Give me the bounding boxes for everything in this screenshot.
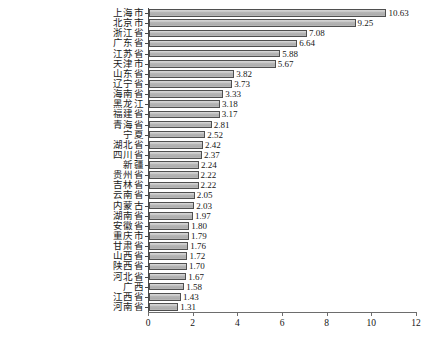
category-label: 天津市 xyxy=(113,59,144,69)
chart-row: 重庆市1.79 xyxy=(148,231,416,241)
category-tick-mark xyxy=(145,256,148,257)
category-tick-mark xyxy=(145,266,148,267)
category-label: 重庆市 xyxy=(113,231,144,241)
bar: 6.64 xyxy=(149,40,297,48)
bar-value-label: 2.42 xyxy=(205,140,221,149)
category-tick-mark xyxy=(145,307,148,308)
bar-value-label: 2.05 xyxy=(197,191,213,200)
category-tick-mark xyxy=(145,145,148,146)
category-label: 北京市 xyxy=(113,18,144,28)
x-axis-tick-label: 2 xyxy=(190,318,195,329)
x-axis-tick-mark xyxy=(237,312,238,316)
bar-value-label: 1.43 xyxy=(183,292,199,301)
category-tick-mark xyxy=(145,175,148,176)
bar-value-label: 1.79 xyxy=(191,231,207,240)
bar: 3.17 xyxy=(149,111,220,119)
x-axis-tick-label: 10 xyxy=(367,318,377,329)
bar: 2.22 xyxy=(149,171,199,179)
category-tick-mark xyxy=(145,84,148,85)
category-tick-mark xyxy=(145,246,148,247)
category-label: 河南省 xyxy=(113,302,144,312)
x-axis-tick-label: 6 xyxy=(280,318,285,329)
category-tick-mark xyxy=(145,135,148,136)
bar-value-label: 3.18 xyxy=(222,100,238,109)
chart-row: 宁夏2.52 xyxy=(148,130,416,140)
category-tick-mark xyxy=(145,165,148,166)
category-label: 山西省 xyxy=(113,251,144,261)
bar: 2.24 xyxy=(149,161,199,169)
chart-row: 四川省2.37 xyxy=(148,150,416,160)
bar-value-label: 1.72 xyxy=(189,252,205,261)
bar-value-label: 1.67 xyxy=(188,272,204,281)
bar-value-label: 10.63 xyxy=(388,9,408,18)
bar: 1.79 xyxy=(149,232,189,240)
chart-row: 陕西省1.70 xyxy=(148,261,416,271)
bar-value-label: 1.58 xyxy=(186,282,202,291)
category-tick-mark xyxy=(145,155,148,156)
category-tick-mark xyxy=(145,54,148,55)
bar-value-label: 3.82 xyxy=(236,69,252,78)
chart-row: 辽宁省3.73 xyxy=(148,79,416,89)
category-label: 广西 xyxy=(123,282,144,292)
chart-row: 广西1.58 xyxy=(148,282,416,292)
category-tick-mark xyxy=(145,287,148,288)
bar-value-label: 2.22 xyxy=(201,181,217,190)
category-tick-mark xyxy=(145,64,148,65)
chart-row: 云南省2.05 xyxy=(148,190,416,200)
bar-chart: 上海市10.63北京市9.25浙江省7.08广东省6.64江苏省5.88天津市5… xyxy=(0,0,430,342)
category-tick-mark xyxy=(145,94,148,95)
category-tick-mark xyxy=(145,226,148,227)
category-tick-mark xyxy=(145,206,148,207)
bar-value-label: 2.37 xyxy=(204,150,220,159)
category-label: 湖南省 xyxy=(113,211,144,221)
chart-row: 吉林省2.22 xyxy=(148,180,416,190)
chart-row: 福建省3.17 xyxy=(148,109,416,119)
bar: 1.58 xyxy=(149,283,184,291)
chart-row: 天津市5.67 xyxy=(148,59,416,69)
bar-value-label: 1.70 xyxy=(189,262,205,271)
category-label: 四川省 xyxy=(113,150,144,160)
category-tick-mark xyxy=(145,13,148,14)
category-label: 湖北省 xyxy=(113,140,144,150)
bar-value-label: 2.81 xyxy=(214,120,230,129)
category-label: 陕西省 xyxy=(113,261,144,271)
chart-row: 内蒙古2.03 xyxy=(148,201,416,211)
category-label: 河北省 xyxy=(113,272,144,282)
bar: 2.42 xyxy=(149,141,203,149)
bar: 1.80 xyxy=(149,222,189,230)
x-axis-tick-mark xyxy=(327,312,328,316)
bar-value-label: 2.52 xyxy=(207,130,223,139)
x-axis-tick-mark xyxy=(193,312,194,316)
bar-value-label: 3.17 xyxy=(222,110,238,119)
bar-value-label: 1.31 xyxy=(180,302,196,311)
bar: 2.37 xyxy=(149,151,202,159)
category-label: 新疆 xyxy=(123,160,144,170)
category-tick-mark xyxy=(145,297,148,298)
bar: 10.63 xyxy=(149,9,386,17)
category-label: 浙江省 xyxy=(113,28,144,38)
category-tick-mark xyxy=(145,185,148,186)
bar-value-label: 1.76 xyxy=(190,242,206,251)
bar: 2.52 xyxy=(149,131,205,139)
x-axis-tick-mark xyxy=(371,312,372,316)
category-label: 甘肃省 xyxy=(113,241,144,251)
chart-row: 新疆2.24 xyxy=(148,160,416,170)
bar-value-label: 1.80 xyxy=(191,221,207,230)
bar: 1.97 xyxy=(149,212,193,220)
bar: 3.73 xyxy=(149,80,232,88)
category-label: 广东省 xyxy=(113,38,144,48)
bar-value-label: 5.67 xyxy=(278,59,294,68)
chart-row: 安徽省1.80 xyxy=(148,221,416,231)
category-tick-mark xyxy=(145,195,148,196)
x-axis-tick-label: 8 xyxy=(324,318,329,329)
category-tick-mark xyxy=(145,277,148,278)
category-label: 海南省 xyxy=(113,89,144,99)
bar: 1.43 xyxy=(149,293,181,301)
x-axis-tick-mark xyxy=(282,312,283,316)
category-tick-mark xyxy=(145,74,148,75)
chart-row: 山东省3.82 xyxy=(148,69,416,79)
bar-value-label: 3.33 xyxy=(225,90,241,99)
bar: 3.18 xyxy=(149,100,220,108)
category-label: 上海市 xyxy=(113,8,144,18)
bar-value-label: 6.64 xyxy=(299,39,315,48)
